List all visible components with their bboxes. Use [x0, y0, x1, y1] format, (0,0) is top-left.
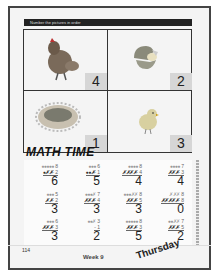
chick-icon: [134, 107, 160, 135]
answer[interactable]: 5: [135, 229, 142, 243]
page-number: 114: [22, 247, 30, 253]
nest-icon: [34, 101, 82, 135]
footer-decoration: [8, 245, 211, 271]
picture-grid: 4 2 1 3: [23, 29, 192, 153]
copyright-side-text: [196, 160, 199, 245]
math-problem: ●●●●● 8 ✗✗✗- 3 5: [110, 218, 150, 245]
week-label: Week 9: [83, 254, 104, 260]
answer[interactable]: 4: [135, 174, 142, 188]
order-number-box[interactable]: 2: [170, 73, 192, 90]
math-problem: ●●● 5 ✗✗- 2 3: [26, 191, 66, 218]
instruction-bar: Number the pictures in order: [24, 19, 192, 26]
math-time-heading: MATH TIME: [26, 145, 94, 159]
answer[interactable]: 3: [135, 202, 142, 216]
math-problem: ●●●●● 8 ●✗✗- 2 6: [26, 163, 66, 190]
answer[interactable]: 3: [51, 202, 58, 216]
answer[interactable]: 0: [177, 202, 184, 216]
answer[interactable]: 2: [93, 229, 100, 243]
math-problem: ✗✗✗ 8 ✗✗✗✗✗- 8 0: [152, 191, 192, 218]
math-problem: ●●●✗ 7 ✗✗✗- 4 3: [68, 191, 108, 218]
math-problem: ●●●✗✗ 8 ✗✗✗- 5 3: [110, 191, 150, 218]
answer[interactable]: 3: [51, 229, 58, 243]
math-problem: ●●●● 8 ✗✗✗✗- 4 4: [110, 163, 150, 190]
picture-cell-chick: 3: [108, 91, 192, 152]
answer[interactable]: 6: [51, 174, 58, 188]
math-problem: ●●●● 7 ✗✗✗- 3 4: [152, 163, 192, 190]
answer[interactable]: 3: [93, 202, 100, 216]
order-number-box[interactable]: 3: [170, 135, 192, 152]
answer[interactable]: 4: [177, 174, 184, 188]
math-problem: ●●● 6 ✗✗✗- 3 3: [26, 218, 66, 245]
order-number-box[interactable]: 4: [85, 73, 107, 90]
math-problem: ●●✗ 3 - 1 2: [68, 218, 108, 245]
picture-cell-hen: 4: [24, 30, 108, 91]
egg-icon: [130, 42, 164, 72]
picture-cell-hatching-egg: 2: [108, 30, 192, 91]
hen-icon: [42, 36, 82, 84]
picture-cell-nest: 1: [24, 91, 108, 152]
page-footer: 114 Week 9 Thursday: [8, 245, 211, 270]
answer[interactable]: 5: [93, 174, 100, 188]
math-problem: ●●● 6 ●●✗- 1 5: [68, 163, 108, 190]
math-problems: ●●●●● 8 ●✗✗- 2 6 ●●● 6 ●●✗- 1 5 ●●●● 8 ✗…: [24, 160, 192, 246]
